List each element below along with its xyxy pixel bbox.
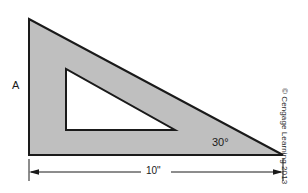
dimension-arrowhead-left	[29, 169, 39, 175]
drafting-triangle-figure: A 30° 10" © Cengage Learning 2013	[0, 0, 308, 193]
angle-label-30-degrees: 30°	[212, 137, 229, 148]
vertical-side-label: A	[12, 80, 19, 91]
dimension-label-10-inches: 10"	[146, 166, 161, 176]
copyright-credit: © Cengage Learning 2013	[280, 88, 289, 184]
